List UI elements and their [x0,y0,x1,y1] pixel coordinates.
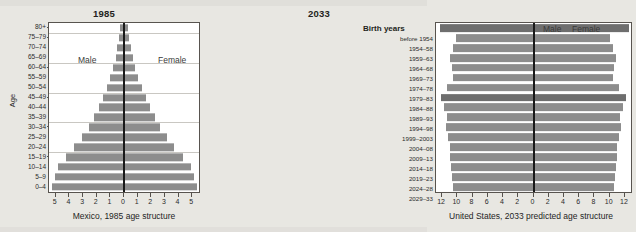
x-tick-label: 6 [576,198,580,205]
caption-mexico: Mexico, 1985 age structure [48,211,200,221]
right-panel-title: 2033 [221,8,417,19]
right-female-label: Female [572,24,600,34]
y-tick-label: 1974–78 [409,85,433,92]
y-tick-label: 2004–08 [409,145,433,152]
y-tick-label: 1994–98 [409,125,433,132]
left-panel-title: 1985 [14,8,194,19]
bar-male [444,104,533,112]
x-tick-mark [96,193,97,197]
right-male-label: Male [543,24,561,34]
x-tick-label: 0 [531,198,535,205]
y-tick-label: 1979–83 [409,95,433,102]
y-tick-label: 30–34 [28,123,46,130]
bar-male [447,84,533,92]
x-tick-label: 1 [135,198,139,205]
x-tick-mark [456,193,457,197]
bar-male [456,34,534,42]
y-tick-label: 2014–18 [409,165,433,172]
bar-female [534,74,614,82]
bar-male [450,153,533,161]
y-tick-label: 1954–58 [409,45,433,52]
y-tick-label: 1989–93 [409,115,433,122]
x-tick-mark [164,193,165,197]
x-tick-label: 2 [546,198,550,205]
y-tick-label: 2009–13 [409,155,433,162]
x-tick-mark [82,193,83,197]
x-tick-mark [593,193,594,197]
x-tick-mark [441,193,442,197]
y-tick-label: 10–14 [28,163,46,170]
y-tick-label: 5–9 [35,173,46,180]
plot-area-mexico [48,22,200,193]
x-tick-mark [472,193,473,197]
bar-male [99,104,124,111]
y-tick-label: 55–59 [28,73,46,80]
bar-female [124,163,191,170]
x-tick-label: 10 [605,198,613,205]
y-tick-label: 50–54 [28,83,46,90]
x-tick-mark [123,193,124,197]
plot-inner-united-states [436,23,631,192]
x-tick-label: 3 [162,198,166,205]
y-tick-label: 1964–68 [409,65,433,72]
bar-female [124,64,135,71]
x-tick-label: 10 [452,198,460,205]
x-tick-mark [68,193,69,197]
plot-inner-mexico [49,23,199,192]
x-tick-label: 0 [121,198,125,205]
x-tick-label: 1 [107,198,111,205]
bar-female [124,104,150,111]
y-tick-label: 25–29 [28,133,46,140]
bar-male [110,74,124,81]
bar-female [534,143,618,151]
bar-female [124,44,131,51]
x-tick-mark [517,193,518,197]
bar-male [107,84,124,91]
bar-female [534,163,616,171]
y-tick-label: 2019–23 [409,175,433,182]
bar-male [446,124,534,132]
x-tick-mark [609,193,610,197]
center-axis-mexico [123,23,125,192]
x-tick-label: 6 [485,198,489,205]
y-tick-label: before 1954 [400,35,433,42]
bar-male [447,114,534,122]
caption-united-states: United States, 2033 predicted age struct… [426,211,636,221]
x-tick-mark [191,193,192,197]
y-tick-label: 45–49 [28,93,46,100]
y-tick-label: 1969–73 [409,75,433,82]
x-tick-label: 2 [515,198,519,205]
bar-male [55,173,124,180]
panel-united-states-2033: 2033 Birth years before 19541954–581959–… [213,0,427,232]
x-tick-label: 12 [437,198,445,205]
bar-female [534,114,621,122]
bar-female [124,124,160,131]
bar-female [534,133,619,141]
bar-male [450,143,534,151]
y-tick-label: 1984–88 [409,105,433,112]
bar-female [124,134,167,141]
y-tick-label: 60–64 [28,63,46,70]
bar-female [124,54,133,61]
x-tick-mark [137,193,138,197]
plot-area-united-states [435,22,632,193]
x-tick-mark [502,193,503,197]
bar-female [534,34,610,42]
bar-female [124,74,138,81]
y-tick-label: 80+ [35,23,46,30]
x-tick-label: 4 [67,198,71,205]
x-tick-label: 3 [80,198,84,205]
bar-male [58,163,124,170]
bar-male [453,183,534,191]
x-tick-mark [533,193,534,197]
center-axis-united-states [533,23,535,192]
x-tick-mark [150,193,151,197]
bar-female [534,54,616,62]
x-tick-mark [109,193,110,197]
bar-male [441,94,534,102]
bar-male [448,133,533,141]
x-tick-label: 12 [620,198,628,205]
x-tick-label: 8 [470,198,474,205]
bar-male [94,114,124,121]
